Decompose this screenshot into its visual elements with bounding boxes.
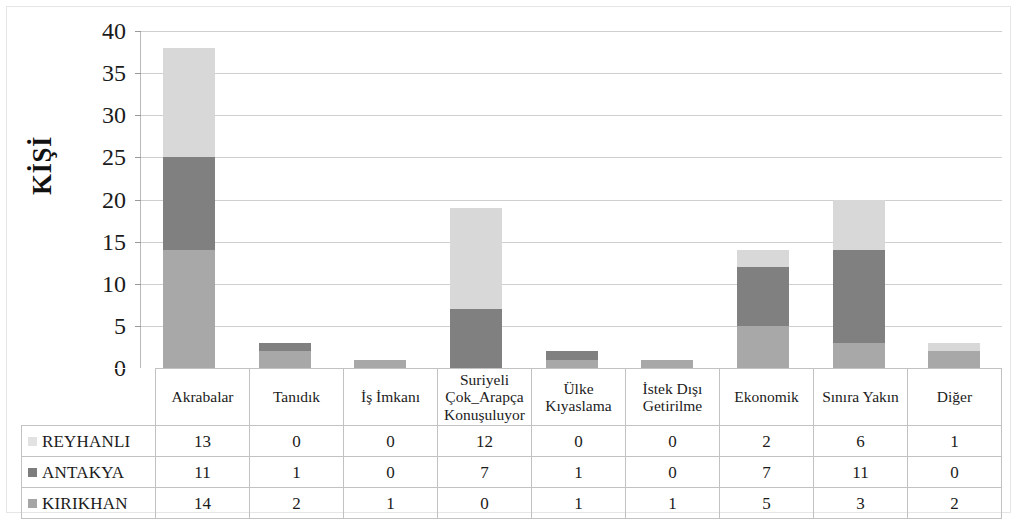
- category-header-line: Sınıra Yakın: [817, 388, 904, 405]
- bar-segment[interactable]: [546, 351, 598, 359]
- bar-segment[interactable]: [833, 250, 885, 343]
- bar-segment[interactable]: [259, 343, 311, 351]
- table-cell: 11: [814, 457, 908, 488]
- y-axis-tick-20: 20: [102, 188, 126, 212]
- table-cell: 11: [156, 457, 250, 488]
- category-header-1: Akrabalar: [156, 369, 250, 426]
- bar-segment[interactable]: [833, 200, 885, 251]
- category-header-8: Sınıra Yakın: [814, 369, 908, 426]
- table-cell: 0: [344, 457, 438, 488]
- y-axis-tick-labels: 4035302520151050: [78, 31, 136, 368]
- y-axis-tick-15: 15: [102, 230, 126, 254]
- bar-stack[interactable]: [354, 360, 406, 368]
- bar-segment[interactable]: [641, 360, 693, 368]
- table-cell: 2: [908, 488, 1002, 519]
- table-cell: 1: [908, 426, 1002, 457]
- bar-slot: [619, 31, 715, 368]
- category-header-line: Ülke: [535, 380, 622, 397]
- stacked-bar-chart: KİŞİ 4035302520151050 AkrabalarTanıdıkİş…: [0, 0, 1019, 521]
- table-cell: 0: [438, 488, 532, 519]
- table-cell: 2: [720, 426, 814, 457]
- bar-stack[interactable]: [163, 48, 215, 368]
- bar-segment[interactable]: [833, 343, 885, 368]
- table-cell: 12: [438, 426, 532, 457]
- bar-segment[interactable]: [450, 309, 502, 368]
- bar-stack[interactable]: [928, 343, 980, 368]
- table-cell: 0: [344, 426, 438, 457]
- category-header-4: SuriyeliÇok_ArapçaKonuşuluyor: [438, 369, 532, 426]
- table-cell: 1: [532, 457, 626, 488]
- table-row: REYHANLI13001200261: [22, 426, 1002, 457]
- bar-segment[interactable]: [163, 157, 215, 250]
- data-table: AkrabalarTanıdıkİş İmkanıSuriyeliÇok_Ara…: [21, 368, 1002, 519]
- table-cell: 6: [814, 426, 908, 457]
- table-cell: 7: [438, 457, 532, 488]
- bar-stack[interactable]: [450, 208, 502, 368]
- category-header-line: İş İmkanı: [347, 388, 434, 405]
- y-axis-tick-30: 30: [102, 103, 126, 127]
- data-table-body: AkrabalarTanıdıkİş İmkanıSuriyeliÇok_Ara…: [22, 369, 1002, 519]
- category-header-line: Tanıdık: [253, 388, 340, 405]
- category-header-6: İstek DışıGetirilme: [626, 369, 720, 426]
- y-axis-tick-10: 10: [102, 272, 126, 296]
- square-swatch-icon: [28, 437, 37, 446]
- table-row: ANTAKYA11107107110: [22, 457, 1002, 488]
- y-axis-tick-40: 40: [102, 19, 126, 43]
- legend-label: REYHANLI: [42, 432, 130, 451]
- table-cell: 13: [156, 426, 250, 457]
- legend-item-kirikhan[interactable]: KIRIKHAN: [22, 488, 156, 519]
- y-axis-tick-25: 25: [102, 145, 126, 169]
- category-header-5: ÜlkeKıyaslama: [532, 369, 626, 426]
- table-cell: 5: [720, 488, 814, 519]
- table-cell: 2: [250, 488, 344, 519]
- legend-item-antakya[interactable]: ANTAKYA: [22, 457, 156, 488]
- square-swatch-icon: [28, 499, 37, 508]
- category-header-line: Akrabalar: [159, 388, 246, 405]
- bar-stack[interactable]: [833, 200, 885, 368]
- y-axis-tick-5: 5: [114, 314, 126, 338]
- plot-area: [140, 31, 1002, 368]
- legend-item-reyhanli[interactable]: REYHANLI: [22, 426, 156, 457]
- bars-layer: [141, 31, 1002, 368]
- category-header-line: Ekonomik: [723, 388, 810, 405]
- bar-segment[interactable]: [928, 343, 980, 351]
- table-cell: 0: [532, 426, 626, 457]
- table-cell: 1: [344, 488, 438, 519]
- bar-segment[interactable]: [737, 267, 789, 326]
- bar-segment[interactable]: [546, 360, 598, 368]
- category-header-3: İş İmkanı: [344, 369, 438, 426]
- bar-segment[interactable]: [163, 48, 215, 158]
- category-header-9: Diğer: [908, 369, 1002, 426]
- bar-slot: [524, 31, 620, 368]
- y-axis-title: KİŞİ: [27, 106, 58, 226]
- table-cell: 14: [156, 488, 250, 519]
- bar-segment[interactable]: [928, 351, 980, 368]
- y-axis-tick-35: 35: [102, 61, 126, 85]
- table-cell: 0: [626, 426, 720, 457]
- category-header-line: İstek Dışı: [629, 380, 716, 397]
- table-cell: 1: [532, 488, 626, 519]
- bar-segment[interactable]: [259, 351, 311, 368]
- bar-segment[interactable]: [354, 360, 406, 368]
- category-header-7: Ekonomik: [720, 369, 814, 426]
- bar-stack[interactable]: [546, 351, 598, 368]
- bar-segment[interactable]: [163, 250, 215, 368]
- bar-segment[interactable]: [737, 326, 789, 368]
- category-header-line: Konuşuluyor: [441, 406, 528, 423]
- bar-stack[interactable]: [737, 250, 789, 368]
- bar-stack[interactable]: [259, 343, 311, 368]
- category-header-line: Suriyeli: [441, 371, 528, 388]
- table-row: KIRIKHAN1421011532: [22, 488, 1002, 519]
- table-cell: 1: [626, 488, 720, 519]
- table-cell: 7: [720, 457, 814, 488]
- bar-slot: [906, 31, 1002, 368]
- bar-segment[interactable]: [450, 208, 502, 309]
- table-corner-cell: [22, 369, 156, 426]
- category-header-2: Tanıdık: [250, 369, 344, 426]
- bar-slot: [237, 31, 333, 368]
- legend-label: KIRIKHAN: [42, 494, 128, 513]
- table-cell: 0: [626, 457, 720, 488]
- bar-stack[interactable]: [641, 360, 693, 368]
- table-cell: 0: [250, 426, 344, 457]
- bar-segment[interactable]: [737, 250, 789, 267]
